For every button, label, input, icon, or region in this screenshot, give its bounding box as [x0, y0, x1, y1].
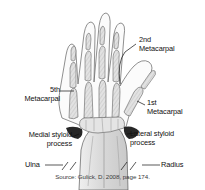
- label-ulna: Ulna: [25, 161, 40, 170]
- label-medial-styloid-process: Medial styloid process: [0, 131, 72, 148]
- source-citation: Source: Gulick, D. 2008, page 174.: [0, 173, 205, 180]
- leader-ulna: [45, 162, 76, 170]
- anatomy-figure: 2nd Metacarpal 5th Metacarpal 1st Metaca…: [0, 0, 205, 190]
- leader-1st-metacarpal: [137, 101, 145, 105]
- label-radius: Radius: [161, 161, 183, 170]
- label-2nd-metacarpal: 2nd Metacarpal: [139, 36, 175, 53]
- label-5th-metacarpal: 5th Metacarpal: [0, 86, 60, 103]
- label-1st-metacarpal: 1st Metacarpal: [147, 99, 183, 116]
- label-lateral-styloid-process: Lateral styloid process: [130, 130, 174, 147]
- forearm-group: [79, 128, 128, 190]
